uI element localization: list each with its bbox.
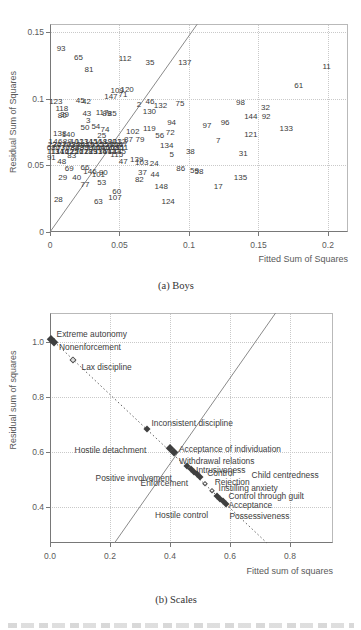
scatter-point-number: 7 [216,137,220,145]
x-tick-mark [119,232,120,236]
scatter-point-number: 92 [262,113,271,121]
scatter-point-number: 96 [221,119,230,127]
x-tick-mark [50,543,51,547]
x-tick-label: 0.1 [183,240,195,250]
scale-point-label: Acceptance [229,501,273,509]
scatter-point-number: 137 [178,59,191,67]
scatter-point-number: 61 [294,82,303,90]
x-tick-label: 0.0 [44,551,56,561]
plot-b-x-axis-title: Fitted sum of squares [246,566,333,576]
scatter-point-number: 66 [81,164,90,172]
scatter-point-number: 119 [143,125,156,133]
scatter-point-number: 135 [234,174,247,182]
scatter-point-number: 148 [155,183,168,191]
plot-b-caption: (b) Scales [155,594,197,605]
scatter-point-number: 121 [244,131,257,139]
scatter-point-number: 82 [135,176,144,184]
scale-point-label: Extreme autonomy [57,329,127,337]
y-tick-label: 0 [10,227,44,237]
scatter-point-number: 94 [167,119,176,127]
scatter-point-number: 86 [176,165,185,173]
x-tick-label: 0.4 [164,551,176,561]
scatter-point-number: 17 [214,183,223,191]
scatter-point-number: 93 [57,45,66,53]
y-tick-label: 0.8 [10,392,44,402]
cropped-caption-strip [8,623,354,628]
scatter-point-number: 117 [96,109,109,117]
x-tick-mark [110,543,111,547]
x-tick-mark [230,543,231,547]
scatter-point-number: 144 [244,113,257,121]
scale-point-label: Lax discipline [82,362,132,370]
scatter-point-number: 98 [236,99,245,107]
x-tick-label: 0.15 [250,240,267,250]
scatter-point-number: 35 [146,59,155,67]
x-tick-label: 0.2 [322,240,334,250]
scatter-point-number: 134 [160,142,173,150]
scale-point-label: Child centredness [252,470,319,478]
scatter-point-number: 58 [195,168,204,176]
y-tick-label: 0.15 [10,27,44,37]
scatter-point-number: 133 [280,125,293,133]
scatter-point-number: 72 [166,129,175,137]
scatter-point-number: 75 [176,100,185,108]
y-tick-label: 1.0 [10,337,44,347]
y-tick-mark [46,232,50,233]
y-tick-label: 0.05 [10,160,44,170]
scatter-point-number: 69 [65,165,74,173]
x-tick-mark [189,232,190,236]
x-tick-label: 0.8 [284,551,296,561]
scatter-point-number: 112 [119,55,132,63]
scatter-point-number: 56 [155,132,164,140]
scatter-point-number: 39 [60,111,69,119]
scatter-point-number: 81 [84,66,93,74]
scatter-point-number: 24 [150,160,159,168]
scatter-point-number: 107 [108,194,121,202]
x-tick-label: 0.05 [111,240,128,250]
scatter-point-number: 38 [186,148,195,156]
scale-point-label: Nonenforcement [59,343,121,351]
scale-point-label: Enforcement [141,479,188,487]
x-tick-mark [258,232,259,236]
y-axis-title-text: Residual Sum of Squares [8,71,18,173]
scatter-point-number: 139 [130,156,143,164]
scatter-point-number: 11 [322,63,330,71]
x-tick-mark [170,543,171,547]
scale-point-label: Hostile detachment [75,446,147,454]
scatter-point-number: 71 [119,91,128,99]
x-tick-label: 0 [48,240,53,250]
plot-a-caption: (a) Boys [158,280,194,291]
scatter-point-number: 79 [136,136,145,144]
scale-point-label: Possessiveness [229,512,289,520]
x-tick-label: 0.6 [224,551,236,561]
scatter-point-number: 31 [239,150,248,158]
scatter-point-number: 63 [94,198,103,206]
scatter-point-number: 5 [169,151,173,159]
scatter-point-number: 54 [91,123,100,131]
y-tick-label: 0.6 [10,447,44,457]
scatter-point-number: 97 [203,122,212,130]
scatter-point-number: 124 [161,198,174,206]
scatter-point-number: 130 [143,108,156,116]
scatter-point-number: 147 [104,93,117,101]
scale-point-label: Hostile control [155,511,208,519]
x-tick-mark [50,232,51,236]
scatter-point-number: 77 [81,181,90,189]
scale-point-label: Acceptance of individuation [179,445,281,453]
x-tick-mark [290,543,291,547]
scale-point-label: Inconsistent discipline [151,419,232,427]
scatter-point-number: 28 [54,196,63,204]
scatter-point-number: 29 [58,174,67,182]
scatter-point-number: 65 [74,54,83,62]
y-tick-label: 0.4 [10,502,44,512]
scatter-point-number: 50 [81,124,90,132]
scatter-point-number: 53 [97,179,106,187]
plot-a-x-axis-title: Fitted Sum of Squares [258,254,348,264]
scatter-point-number: 42 [82,98,91,106]
scatter-point-number: 2 [137,101,141,109]
scatter-point-number: 101 [92,171,105,179]
x-tick-label: 0.2 [104,551,116,561]
scatter-point-number: 44 [150,171,159,179]
y-tick-label: 0.1 [10,94,44,104]
scatter-point-number: 48 [57,158,66,166]
